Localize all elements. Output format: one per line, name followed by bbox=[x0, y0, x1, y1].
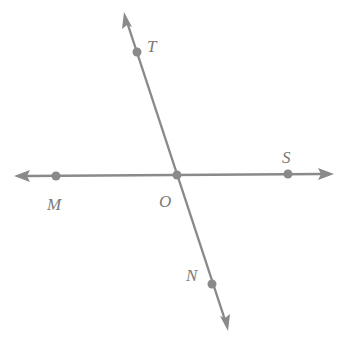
arrowhead-up-icon bbox=[122, 12, 132, 29]
point-s bbox=[284, 170, 293, 179]
point-n bbox=[208, 280, 217, 289]
geometry-diagram: T M O S N bbox=[0, 0, 346, 339]
label-m: M bbox=[46, 195, 62, 214]
point-m bbox=[52, 172, 61, 181]
label-s: S bbox=[282, 148, 291, 167]
label-n: N bbox=[185, 266, 199, 285]
point-t bbox=[133, 48, 142, 57]
point-o bbox=[173, 171, 182, 180]
label-t: T bbox=[147, 37, 158, 56]
label-o: O bbox=[159, 192, 171, 211]
